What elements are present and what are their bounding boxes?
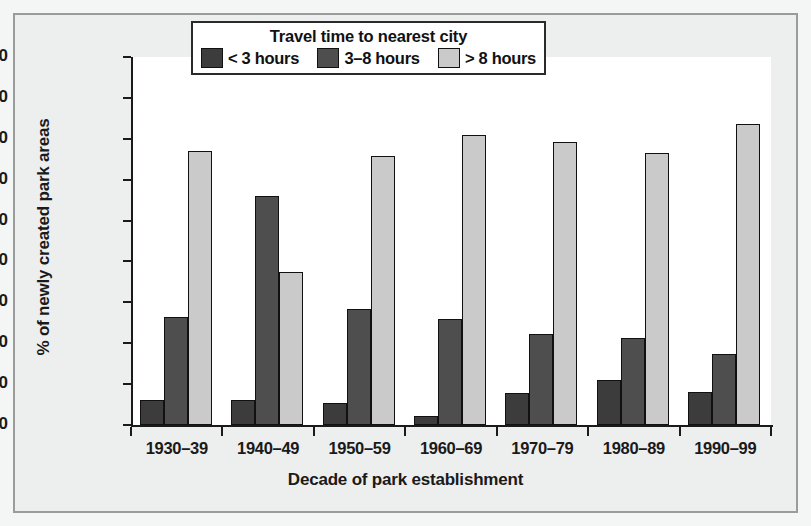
legend: Travel time to nearest city < 3 hours3–8… [191, 21, 546, 75]
bar [712, 354, 736, 425]
bar [371, 156, 395, 425]
bar [597, 380, 621, 425]
legend-item: > 8 hours [438, 48, 536, 68]
y-tick [123, 301, 131, 303]
bar [231, 400, 255, 425]
x-tick-label: 1960–69 [405, 439, 496, 458]
x-tick-label: 1990–99 [680, 439, 771, 458]
y-axis-line [131, 57, 133, 426]
y-tick [123, 97, 131, 99]
figure-frame: % of newly created park areas Decade of … [13, 13, 798, 513]
y-tick [123, 424, 131, 426]
x-tick [770, 427, 772, 436]
bar [645, 153, 669, 425]
bar [323, 403, 347, 425]
legend-title: Travel time to nearest city [201, 27, 536, 46]
legend-label: 3–8 hours [344, 49, 419, 68]
y-tick-label: 80 [0, 87, 8, 107]
bar [414, 416, 438, 425]
bar [438, 319, 462, 425]
y-tick-label: 50 [0, 210, 8, 230]
bar [621, 338, 645, 425]
legend-swatch-icon [438, 48, 460, 68]
legend-item: 3–8 hours [317, 48, 419, 68]
x-tick [130, 427, 132, 436]
y-tick-label: 20 [0, 332, 8, 352]
bar [505, 393, 529, 425]
x-axis-line [131, 425, 773, 427]
y-tick [123, 383, 131, 385]
y-tick [123, 220, 131, 222]
y-tick-label: 40 [0, 250, 8, 270]
y-axis-title: % of newly created park areas [34, 72, 54, 402]
bar [140, 400, 164, 425]
bar [279, 272, 303, 425]
x-tick-label: 1930–39 [131, 439, 222, 458]
y-tick [123, 56, 131, 58]
legend-item: < 3 hours [201, 48, 299, 68]
bar [164, 317, 188, 425]
x-axis-title: Decade of park establishment [15, 470, 796, 490]
bar [688, 392, 712, 425]
x-tick [404, 427, 406, 436]
legend-swatch-icon [317, 48, 339, 68]
y-tick [123, 179, 131, 181]
y-tick-label: 0 [0, 414, 8, 434]
x-tick-label: 1940–49 [222, 439, 313, 458]
y-tick [123, 342, 131, 344]
x-tick [221, 427, 223, 436]
bar [529, 334, 553, 425]
y-tick [123, 138, 131, 140]
x-tick [496, 427, 498, 436]
legend-label: < 3 hours [228, 49, 299, 68]
bar [188, 151, 212, 425]
x-tick [313, 427, 315, 436]
x-tick-label: 1970–79 [497, 439, 588, 458]
legend-items: < 3 hours3–8 hours> 8 hours [201, 48, 536, 68]
bar [553, 142, 577, 425]
y-tick-label: 10 [0, 373, 8, 393]
x-tick [587, 427, 589, 436]
x-tick-label: 1950–59 [314, 439, 405, 458]
y-tick [123, 260, 131, 262]
bar [736, 124, 760, 425]
plot-wrapper: % of newly created park areas Decade of … [15, 15, 796, 511]
bar [255, 196, 279, 425]
y-tick-label: 30 [0, 291, 8, 311]
y-tick-label: 70 [0, 128, 8, 148]
x-tick [679, 427, 681, 436]
x-tick-label: 1980–89 [588, 439, 679, 458]
bar [347, 309, 371, 425]
legend-swatch-icon [201, 48, 223, 68]
y-tick-label: 60 [0, 169, 8, 189]
y-tick-label: 90 [0, 46, 8, 66]
bar [462, 135, 486, 425]
figure: % of newly created park areas Decade of … [0, 0, 811, 526]
legend-label: > 8 hours [465, 49, 536, 68]
